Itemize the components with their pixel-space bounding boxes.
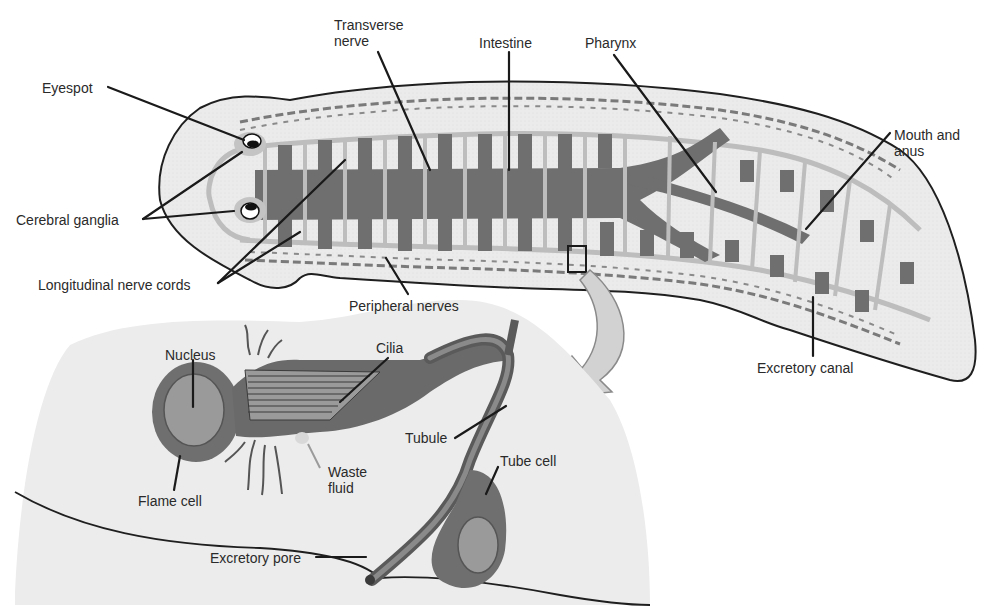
label-longitudinal-nerve-cords: Longitudinal nerve cords xyxy=(38,277,191,293)
excretory-pore xyxy=(365,575,375,585)
label-mouth-and-anus: Mouth and anus xyxy=(894,127,960,159)
label-excretory-pore: Excretory pore xyxy=(210,550,301,566)
label-excretory-canal: Excretory canal xyxy=(757,360,853,376)
label-cerebral-ganglia: Cerebral ganglia xyxy=(16,212,119,228)
label-tube-cell: Tube cell xyxy=(500,453,556,469)
waste-fluid xyxy=(295,432,309,444)
label-eyespot: Eyespot xyxy=(42,80,93,96)
label-cilia: Cilia xyxy=(376,340,403,356)
planarian-diagram xyxy=(0,0,986,610)
label-flame-cell: Flame cell xyxy=(138,493,202,509)
label-peripheral-nerves: Peripheral nerves xyxy=(349,298,459,314)
label-waste-fluid: Waste fluid xyxy=(328,464,367,496)
label-transverse-nerve: Transverse nerve xyxy=(334,17,404,49)
label-intestine: Intestine xyxy=(479,35,532,51)
label-nucleus: Nucleus xyxy=(165,347,216,363)
label-pharynx: Pharynx xyxy=(585,35,636,51)
label-tubule: Tubule xyxy=(405,430,447,446)
